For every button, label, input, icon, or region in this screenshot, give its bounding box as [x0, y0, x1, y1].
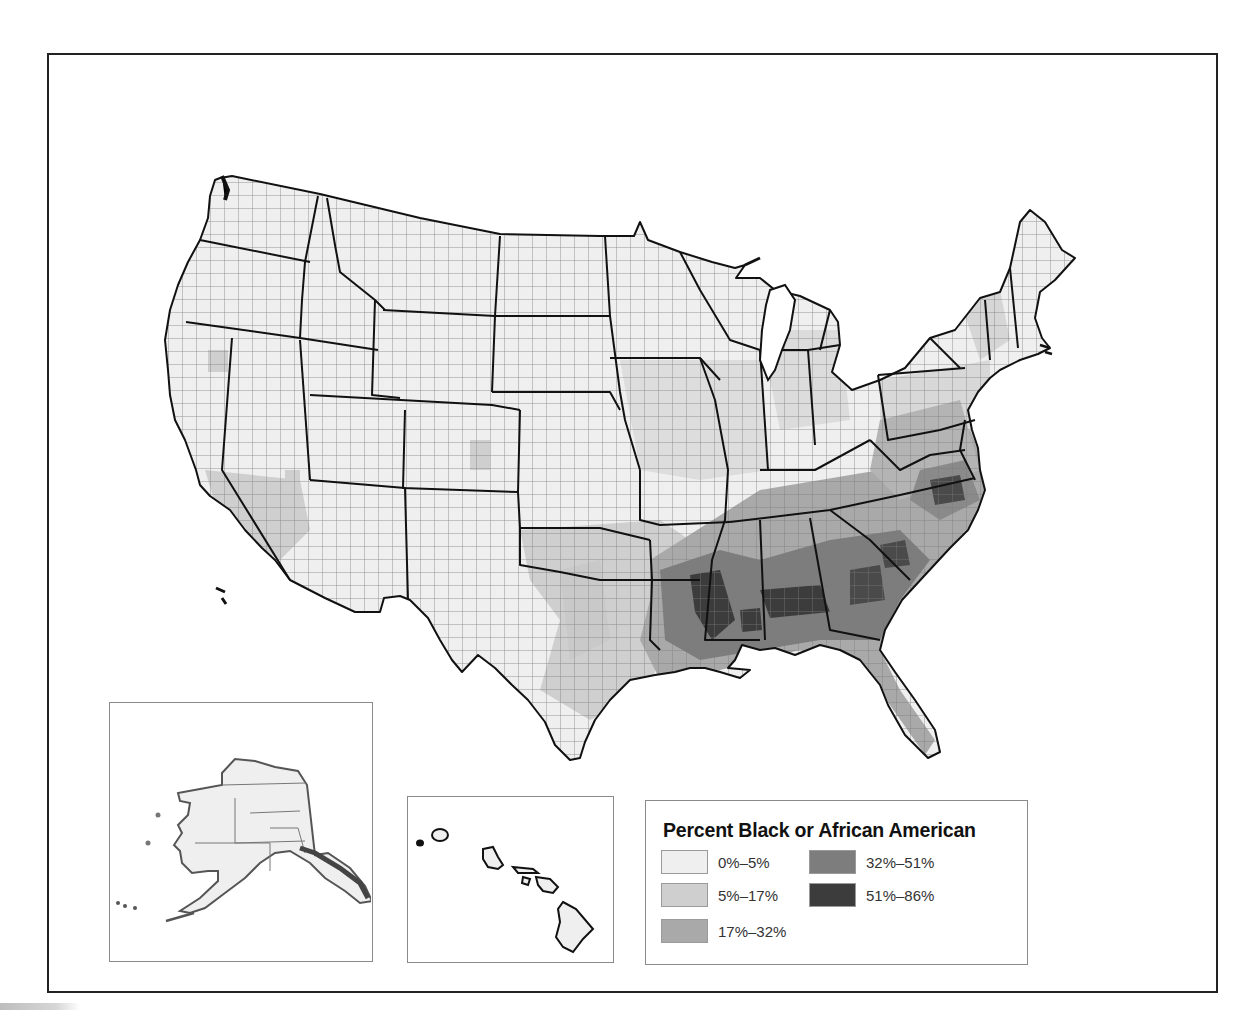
legend-item-0-5: 0%–5% — [661, 850, 770, 874]
legend-label: 17%–32% — [718, 923, 786, 940]
alaska-map — [110, 703, 371, 960]
legend-swatch — [661, 919, 708, 943]
legend-label: 0%–5% — [718, 854, 770, 871]
legend-label: 32%–51% — [866, 854, 934, 871]
legend-item-5-17: 5%–17% — [661, 883, 778, 907]
legend: Percent Black or African American 0%–5% … — [645, 800, 1028, 965]
legend-title: Percent Black or African American — [663, 819, 976, 842]
hawaii-map — [408, 797, 612, 961]
legend-label: 5%–17% — [718, 887, 778, 904]
legend-label: 51%–86% — [866, 887, 934, 904]
legend-swatch — [809, 883, 856, 907]
legend-item-17-32: 17%–32% — [661, 919, 786, 943]
legend-swatch — [661, 883, 708, 907]
scan-artifact — [0, 1003, 80, 1010]
hawaii-inset — [407, 796, 614, 963]
legend-item-32-51: 32%–51% — [809, 850, 934, 874]
legend-swatch — [661, 850, 708, 874]
alaska-inset — [109, 702, 373, 962]
legend-item-51-86: 51%–86% — [809, 883, 934, 907]
legend-swatch — [809, 850, 856, 874]
